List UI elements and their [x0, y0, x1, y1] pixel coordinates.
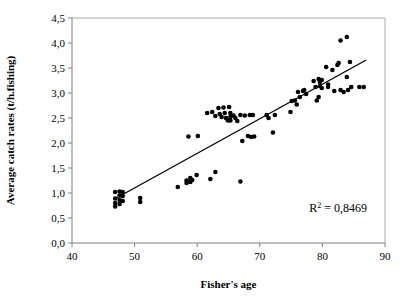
data-point	[222, 111, 227, 116]
chart-figure: 0,00,51,01,52,02,53,03,54,04,54050607080…	[0, 0, 406, 296]
data-point	[242, 113, 247, 118]
data-points	[113, 35, 366, 209]
data-point	[294, 102, 299, 107]
data-point	[138, 200, 143, 205]
data-point	[332, 89, 337, 94]
data-point	[216, 106, 221, 111]
data-point	[349, 85, 354, 90]
data-point	[213, 170, 218, 175]
data-point	[238, 113, 243, 118]
data-point	[113, 190, 118, 195]
y-tick-label: 2,5	[51, 112, 65, 124]
x-tick-label: 80	[317, 250, 329, 262]
data-point	[330, 68, 335, 73]
data-point	[240, 139, 245, 144]
y-tick-label: 1,0	[51, 187, 65, 199]
y-tick-label: 4,5	[51, 12, 65, 24]
regression-line	[115, 60, 367, 199]
data-point	[194, 173, 199, 178]
data-point	[288, 110, 293, 115]
r-squared-annotation: R2 = 0,8469	[309, 201, 367, 215]
x-tick-label: 50	[129, 250, 141, 262]
y-tick-label: 0,5	[51, 212, 65, 224]
data-point	[271, 130, 276, 135]
x-tick-label: 40	[67, 250, 79, 262]
x-tick-label: 60	[192, 250, 204, 262]
data-point	[266, 116, 271, 121]
y-tick-label: 2,0	[51, 137, 65, 149]
data-point	[302, 88, 307, 93]
y-tick-label: 4,0	[51, 37, 65, 49]
data-point	[210, 110, 215, 115]
data-point	[238, 179, 243, 184]
data-point	[196, 134, 201, 139]
data-point	[296, 90, 301, 95]
scatter-chart: 0,00,51,01,52,02,53,03,54,04,54050607080…	[0, 0, 406, 296]
data-point	[113, 204, 118, 209]
data-point	[319, 78, 324, 83]
data-point	[316, 95, 321, 100]
data-point	[205, 111, 210, 116]
data-point	[228, 118, 233, 123]
data-point	[345, 75, 350, 80]
data-point	[348, 60, 353, 65]
data-point	[326, 85, 331, 90]
data-point	[208, 177, 213, 182]
data-point	[190, 178, 195, 183]
x-tick-label: 90	[380, 250, 392, 262]
data-point	[345, 35, 350, 40]
y-tick-label: 3,5	[51, 62, 65, 74]
data-point	[341, 90, 346, 95]
r-squared-value: = 0,8469	[321, 201, 367, 215]
data-point	[336, 61, 341, 66]
x-tick-label: 70	[254, 250, 266, 262]
data-point	[213, 114, 218, 119]
y-tick-label: 1,5	[51, 162, 65, 174]
data-point	[251, 113, 256, 118]
y-axis: 0,00,51,01,52,02,53,03,54,04,5	[51, 12, 72, 249]
y-tick-label: 3,0	[51, 87, 65, 99]
data-point	[357, 85, 362, 90]
data-point	[311, 79, 316, 84]
data-point	[324, 65, 329, 70]
data-point	[252, 134, 257, 139]
r-squared-base: R	[309, 201, 317, 215]
data-point	[186, 134, 191, 139]
data-point	[175, 185, 180, 190]
y-tick-label: 0,0	[51, 237, 65, 249]
data-point	[319, 86, 324, 91]
data-point	[361, 85, 366, 90]
y-axis-title: Average catch rates (t/h.fishing)	[4, 55, 17, 205]
data-point	[221, 105, 226, 110]
x-axis-title: Fisher's age	[201, 278, 257, 290]
data-point	[273, 113, 278, 118]
data-point	[227, 105, 232, 110]
data-point	[138, 196, 143, 201]
data-point	[338, 38, 343, 43]
data-point	[219, 115, 224, 120]
x-axis: 405060708090	[67, 243, 392, 262]
data-point	[235, 119, 240, 124]
data-point	[120, 199, 125, 204]
